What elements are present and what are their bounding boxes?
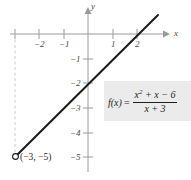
y-tick-label-neg4: −4 [70, 129, 81, 138]
x-tick-label-2: 2 [135, 40, 140, 49]
y-tick-label-neg3: −3 [70, 104, 81, 113]
y-tick-label-neg2: −2 [70, 79, 81, 88]
x-tick-label-neg1: −1 [59, 40, 70, 49]
formula-fraction: x2 + x − 6 x + 3 [133, 89, 178, 114]
formula-numerator: x2 + x − 6 [133, 89, 178, 102]
x-tick-label-1: 1 [111, 40, 116, 49]
formula-lhs: f(x) [108, 97, 122, 108]
function-graph-figure: x y −2 −1 1 2 −1 −2 −3 −4 −5 (−3, −5) f(… [0, 0, 191, 180]
y-tick-label-neg5: −5 [70, 153, 81, 162]
function-formula: f(x) = x2 + x − 6 x + 3 [108, 86, 191, 118]
formula-denominator: x + 3 [142, 103, 167, 115]
hole-point-label: (−3, −5) [20, 153, 51, 163]
x-axis-arrow-icon [163, 31, 170, 38]
removable-discontinuity-open-circle [13, 154, 19, 160]
y-axis-label: y [91, 2, 95, 11]
x-tick-label-neg2: −2 [34, 40, 45, 49]
formula-equals: = [124, 97, 130, 108]
y-tick-label-neg1: −1 [70, 55, 81, 64]
x-axis-label: x [174, 29, 178, 38]
numerator-rest: + x − 6 [142, 90, 175, 101]
